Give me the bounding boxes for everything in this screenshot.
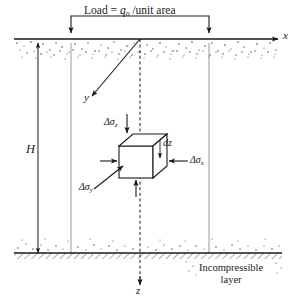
delta-sigma-x-symbol: Δσ — [190, 154, 201, 165]
axis-z-label: z — [136, 285, 140, 297]
delta-sigma-x-label: Δσx — [190, 155, 204, 166]
delta-sigma-z-subscript: z — [115, 121, 118, 128]
axis-y-label: y — [84, 92, 89, 104]
delta-sigma-y-subscript: y — [90, 186, 93, 193]
delta-sigma-z-symbol: Δσ — [104, 116, 115, 127]
delta-sigma-y-symbol: Δσ — [79, 181, 90, 192]
incompressible-layer-line2: layer — [199, 274, 263, 286]
incompressible-boundary — [14, 253, 282, 259]
dz-label: dz — [163, 138, 172, 149]
axis-y-line — [92, 39, 140, 96]
incompressible-layer-line1: Incompressible — [199, 262, 263, 274]
incompressible-layer-label: Incompressible layer — [199, 262, 263, 286]
delta-sigma-z-label: Δσz — [104, 117, 117, 128]
load-label-suffix: /unit area — [130, 4, 176, 16]
soil-stress-diagram: Load = qo /unit area x y z H Δσz Δσx Δσy… — [0, 0, 296, 302]
axis-x-label: x — [283, 30, 288, 42]
load-bracket — [71, 16, 209, 33]
diagram-canvas — [0, 0, 296, 302]
delta-sigma-x-subscript: x — [201, 159, 204, 166]
delta-sigma-y-label: Δσy — [79, 182, 93, 193]
soil-stipple-top — [16, 41, 276, 59]
load-label: Load = qo /unit area — [84, 4, 176, 18]
load-label-prefix: Load = — [84, 4, 120, 16]
depth-label: H — [26, 143, 35, 156]
